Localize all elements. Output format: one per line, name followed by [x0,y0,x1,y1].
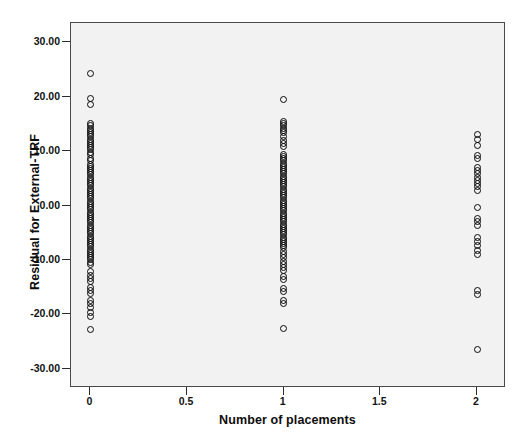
x-axis-tick [89,387,90,395]
y-axis-tick [62,150,70,151]
data-point [474,155,481,162]
data-point [474,187,481,194]
data-point [280,276,287,283]
data-point [474,204,481,211]
x-axis-tick-label: 2 [473,396,479,407]
data-point [280,325,287,332]
data-point [474,346,481,353]
data-point [87,261,94,268]
plot-frame [70,22,505,387]
x-axis-tick-label: 0.5 [179,396,194,407]
x-axis-tick [379,387,380,395]
x-axis-tick [186,387,187,395]
data-point [87,101,94,108]
y-axis-tick [62,368,70,369]
y-axis-tick [62,259,70,260]
x-axis-tick-label: 0 [86,396,92,407]
x-axis-tick-label: 1 [280,396,286,407]
data-point [280,96,287,103]
data-point [474,142,481,149]
y-axis-title: Residual for External-TRF [28,102,42,322]
data-point [280,288,287,295]
y-axis-tick-label: 20.00 [10,90,60,101]
x-axis-tick [476,387,477,395]
data-point [280,300,287,307]
y-axis-tick [62,313,70,314]
data-point [280,143,287,150]
y-axis-tick [62,41,70,42]
data-point [474,251,481,258]
data-point [474,291,481,298]
y-axis-tick [62,96,70,97]
data-point [87,326,94,333]
y-axis-tick [62,205,70,206]
data-point [474,222,481,229]
y-axis-tick-label: -30.00 [10,363,60,374]
x-axis-title: Number of placements [70,413,505,427]
y-axis-tick-label: 30.00 [10,36,60,47]
data-point [87,313,94,320]
x-axis-tick-label: 1.5 [372,396,387,407]
plot-area [71,23,504,386]
x-axis-tick [283,387,284,395]
data-point [87,70,94,77]
scatter-plot-screenshot: 30.0020.0010.000.00-10.00-20.00-30.00 00… [0,0,530,442]
